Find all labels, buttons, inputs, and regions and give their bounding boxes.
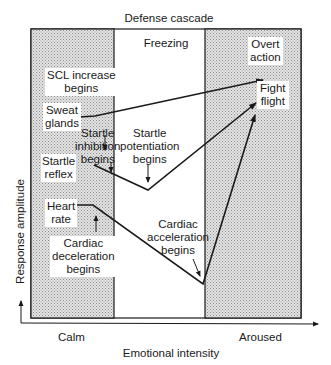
y-axis-label: Response amplitude: [14, 172, 27, 292]
scl-increase-label: SCL increasebegins: [45, 68, 118, 96]
heart-rate-label: Heartrate: [45, 199, 77, 227]
startle-potentiation-label: Startlepotentiationbegins: [120, 127, 179, 166]
cardiac-acceleration-label: Cardiacaccelerationbegins: [147, 218, 209, 257]
freezing-label: Freezing: [136, 37, 196, 50]
startle-reflex-label: Startlereflex: [41, 154, 76, 182]
fight-flight-label: Fightflight: [257, 81, 289, 109]
aroused-label: Aroused: [239, 331, 282, 344]
overt-action-label: Overtaction: [248, 37, 283, 65]
calm-label: Calm: [58, 331, 85, 344]
cardiac-deceleration-label: Cardiacdecelerationbegins: [50, 236, 117, 277]
x-axis-label: Emotional intensity: [116, 347, 226, 360]
x-axis: [21, 323, 318, 324]
startle-inhibition-label: Startleinhibitionbegins: [75, 127, 120, 166]
diagram-title: Defense cascade: [114, 12, 224, 25]
aroused-zone: [205, 29, 301, 318]
